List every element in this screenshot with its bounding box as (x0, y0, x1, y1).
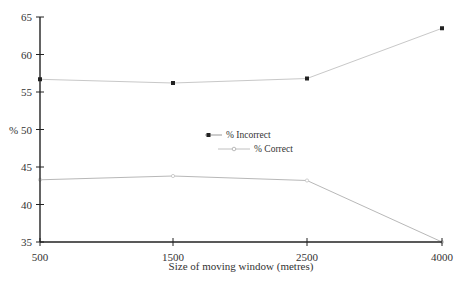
y-tick-label: 45 (21, 161, 33, 173)
legend-label-incorrect: % Incorrect (226, 130, 271, 140)
data-point-incorrect (171, 81, 175, 85)
y-tick-label: % 50 (9, 124, 32, 136)
data-point-correct (171, 174, 174, 177)
y-tick-label: 35 (21, 236, 33, 248)
legend-label-correct: % Correct (254, 144, 293, 154)
series-line-correct (40, 176, 442, 242)
legend-marker-incorrect-icon (207, 133, 211, 137)
legend-marker-correct-icon (232, 147, 236, 151)
legend-item-incorrect: % Incorrect (205, 130, 271, 140)
legend: % Correct % Incorrect (205, 130, 293, 154)
data-point-incorrect (305, 77, 309, 81)
x-tick-label: 500 (32, 251, 49, 263)
legend-item-correct: % Correct (218, 144, 293, 154)
y-tick-label: 60 (21, 49, 33, 61)
y-tick-label: 40 (21, 199, 33, 211)
y-tick-label: 65 (21, 11, 33, 23)
line-chart: 354045% 50556065500150025004000 Size of … (0, 0, 463, 290)
data-point-incorrect (440, 26, 444, 30)
x-tick-label: 4000 (431, 251, 454, 263)
series-line-incorrect (40, 28, 442, 83)
x-axis-title: Size of moving window (metres) (169, 260, 314, 273)
y-tick-label: 55 (21, 86, 33, 98)
data-point-correct (305, 179, 308, 182)
